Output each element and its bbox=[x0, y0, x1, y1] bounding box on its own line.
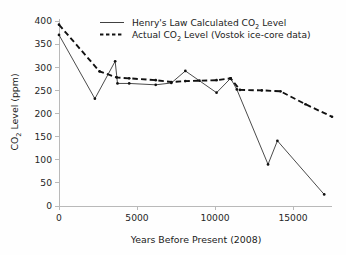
y-tick-label: 50 bbox=[40, 177, 52, 188]
legend-label-prefix: Henry's Law Calculated CO bbox=[132, 18, 255, 28]
data-point bbox=[215, 91, 218, 94]
y-axis-title-suffix: Level (ppm) bbox=[9, 73, 20, 132]
data-point bbox=[94, 97, 97, 100]
x-tick-labels: 0 5000 10000 15000 bbox=[56, 212, 308, 223]
axis-group bbox=[59, 19, 332, 206]
data-point bbox=[215, 79, 218, 82]
y-tick-label: 150 bbox=[34, 131, 52, 142]
data-point bbox=[267, 163, 270, 166]
data-point bbox=[235, 88, 238, 91]
data-point bbox=[58, 23, 61, 26]
legend-entry-henrys-law[interactable]: Henry's Law Calculated CO2 Level bbox=[100, 18, 286, 31]
data-point bbox=[154, 83, 157, 86]
data-point bbox=[128, 77, 131, 80]
y-tick-label: 250 bbox=[34, 85, 52, 96]
data-point bbox=[198, 79, 201, 82]
legend-label-suffix: Level bbox=[259, 18, 286, 28]
series-line-henrys-law bbox=[59, 35, 324, 195]
data-point bbox=[154, 79, 157, 82]
data-point bbox=[58, 34, 61, 37]
x-axis-title: Years Before Present (2008) bbox=[130, 234, 262, 245]
y-tick-marks bbox=[55, 21, 59, 206]
y-axis-title: CO2 Level (ppm) bbox=[9, 73, 23, 150]
data-point bbox=[170, 82, 173, 85]
co2-line-chart: 0 50 100 150 200 250 300 350 400 0 5000 … bbox=[0, 0, 346, 255]
x-tick-label: 0 bbox=[56, 212, 62, 223]
series-markers-henrys-law bbox=[58, 34, 326, 196]
legend-entry-actual-vostok[interactable]: Actual CO2 Level (Vostok ice-core data) bbox=[100, 30, 311, 43]
legend-label-actual-vostok: Actual CO2 Level (Vostok ice-core data) bbox=[132, 30, 311, 43]
y-tick-label: 300 bbox=[34, 62, 52, 73]
data-point bbox=[276, 139, 279, 142]
data-point bbox=[279, 90, 282, 93]
data-point bbox=[260, 89, 263, 92]
data-point bbox=[184, 70, 187, 73]
y-tick-labels: 0 50 100 150 200 250 300 350 400 bbox=[34, 15, 52, 211]
x-tick-label: 15000 bbox=[278, 212, 307, 223]
y-tick-label: 200 bbox=[34, 108, 52, 119]
legend-label-henrys-law: Henry's Law Calculated CO2 Level bbox=[132, 18, 286, 31]
x-tick-label: 5000 bbox=[125, 212, 149, 223]
legend-label-prefix: Actual CO bbox=[132, 30, 177, 40]
chart-legend: Henry's Law Calculated CO2 Level Actual … bbox=[100, 18, 311, 43]
legend-label-suffix: Level (Vostok ice-core data) bbox=[181, 30, 310, 40]
y-tick-label: 400 bbox=[34, 15, 52, 26]
y-tick-label: 0 bbox=[46, 200, 52, 211]
data-point bbox=[98, 70, 101, 73]
data-point bbox=[116, 82, 119, 85]
svg-text:CO2 Level (ppm): CO2 Level (ppm) bbox=[9, 73, 23, 150]
y-axis-title-prefix: CO bbox=[9, 137, 20, 151]
y-tick-label: 350 bbox=[34, 38, 52, 49]
data-point bbox=[114, 60, 117, 63]
data-point bbox=[128, 82, 131, 85]
data-point bbox=[229, 77, 232, 80]
data-point bbox=[323, 193, 326, 196]
series-group bbox=[58, 23, 334, 195]
x-tick-marks bbox=[59, 206, 293, 210]
data-point bbox=[331, 115, 334, 118]
x-tick-label: 10000 bbox=[200, 212, 229, 223]
data-point bbox=[304, 103, 307, 106]
y-tick-label: 100 bbox=[34, 154, 52, 165]
data-point bbox=[239, 89, 242, 92]
chart-figure: 0 50 100 150 200 250 300 350 400 0 5000 … bbox=[0, 0, 346, 255]
data-point bbox=[184, 80, 187, 83]
data-point bbox=[115, 76, 118, 79]
